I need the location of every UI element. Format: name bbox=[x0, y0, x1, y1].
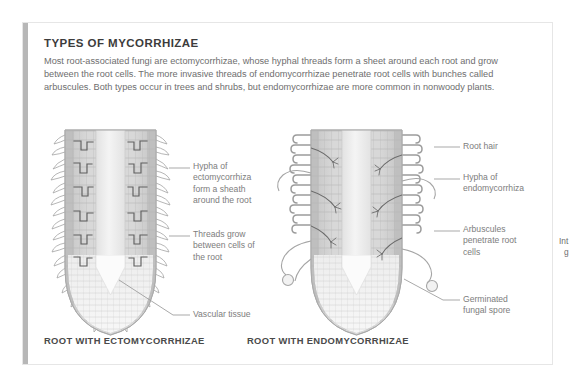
label-germinated-spore: Germinated fungal spore bbox=[463, 294, 527, 317]
margin-text-line1: Int bbox=[559, 236, 582, 247]
page-title: TYPES OF MYCORRHIZAE bbox=[44, 37, 199, 49]
caption-ectomycorrhizae: ROOT WITH ECTOMYCORRHIZAE bbox=[44, 335, 205, 346]
label-threads-grow: Threads grow between cells of the root bbox=[193, 229, 257, 263]
label-root-hair: Root hair bbox=[463, 141, 533, 152]
label-vascular-tissue: Vascular tissue bbox=[193, 309, 267, 320]
panel-accent-bar bbox=[23, 23, 28, 364]
label-hypha-endomycorrhiza: Hypha of endomycorrhiza bbox=[463, 172, 535, 195]
label-hypha-ectomycorrhiza: Hypha of ectomycorrhiza form a sheath ar… bbox=[193, 161, 255, 207]
label-arbuscules: Arbuscules penetrate root cells bbox=[463, 224, 525, 258]
page-margin-text: Int g bbox=[559, 236, 582, 258]
left-root-diagram bbox=[51, 130, 170, 335]
figure-panel: TYPES OF MYCORRHIZAE Most root-associate… bbox=[22, 22, 553, 365]
margin-text-line2: g bbox=[564, 247, 582, 258]
caption-endomycorrhizae: ROOT WITH ENDOMYCORRHIZAE bbox=[247, 335, 409, 346]
panel-body-text: Most root-associated fungi are ectomycor… bbox=[44, 55, 506, 94]
right-root-diagram bbox=[278, 130, 438, 335]
